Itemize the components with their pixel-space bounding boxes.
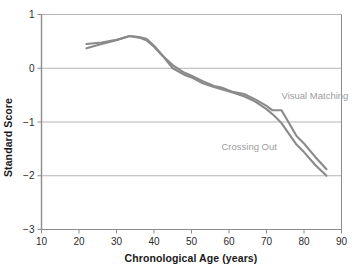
line-chart-plot: 10203040506070809010−1−2−3Visual Matchin…: [0, 0, 352, 275]
x-tick-label-20: 20: [73, 236, 85, 247]
x-tick-label-30: 30: [111, 236, 123, 247]
x-axis-title: Chronological Age (years): [41, 252, 341, 264]
x-tick-label-10: 10: [36, 236, 48, 247]
series-label-0: Visual Matching: [282, 90, 349, 101]
x-tick-label-40: 40: [148, 236, 160, 247]
x-tick-label-70: 70: [261, 236, 273, 247]
series-label-1: Crossing Out: [222, 141, 278, 152]
x-tick-label-50: 50: [186, 236, 198, 247]
y-tick-label--1: −1: [23, 117, 35, 128]
y-tick-label--3: −3: [23, 224, 35, 235]
y-tick-label-1: 1: [29, 9, 35, 20]
y-tick-label-0: 0: [29, 63, 35, 74]
chart-figure: 10203040506070809010−1−2−3Visual Matchin…: [0, 0, 352, 275]
x-tick-label-80: 80: [298, 236, 310, 247]
y-tick-label--2: −2: [23, 170, 35, 181]
x-tick-label-60: 60: [223, 236, 235, 247]
x-tick-label-90: 90: [336, 236, 348, 247]
series-line-1: [87, 36, 327, 176]
series-line-0: [87, 36, 327, 169]
